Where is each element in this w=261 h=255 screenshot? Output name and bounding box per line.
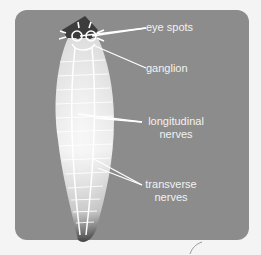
label-longitudinal-line1: longitudinal — [143, 116, 209, 127]
eye-spot-left — [76, 35, 80, 39]
stray-mark — [190, 242, 202, 254]
label-transverse-nerves: transverse nerves — [143, 179, 199, 203]
label-transverse-line2: nerves — [143, 192, 199, 203]
label-transverse-line1: transverse — [143, 179, 199, 190]
label-longitudinal-line2: nerves — [143, 129, 209, 140]
label-eye-spots: eye spots — [146, 22, 193, 33]
label-longitudinal-nerves: longitudinal nerves — [143, 116, 209, 140]
label-ganglion: ganglion — [146, 63, 188, 74]
planarian-illustration — [0, 0, 261, 255]
